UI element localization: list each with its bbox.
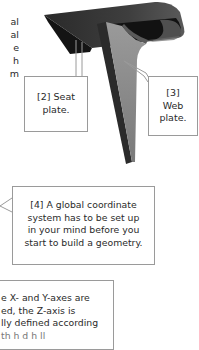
callout-line: Web [149,100,197,113]
callout-line: e X- and Y-axes are [1,292,113,305]
callout-line: ed, the Z-axis is [1,305,113,318]
callout-line: in your mind before you [13,224,154,237]
callout-axes-note: e X- and Y-axes are ed, the Z-axis is ll… [0,280,114,350]
callout-line: start to build a geometry. [13,237,154,250]
callout-line: th h d h ll [1,330,113,343]
callout-coordinate-system: [4] A global coordinate system has to be… [12,186,155,265]
callout-line: plate. [149,112,197,125]
callout-line: [2] Seat [25,91,87,104]
callout-line: lly defined according [1,317,113,330]
callout-seat-plate: [2] Seat plate. [24,76,88,132]
callout-web-plate: [3] Web plate. [148,76,198,136]
callout-line: [3] [149,87,197,100]
callout-line: [4] A global coordinate [13,199,154,212]
callout-line: plate. [25,104,87,117]
callout-line: system has to be set up [13,212,154,225]
leader-line-coordinate [0,198,12,212]
